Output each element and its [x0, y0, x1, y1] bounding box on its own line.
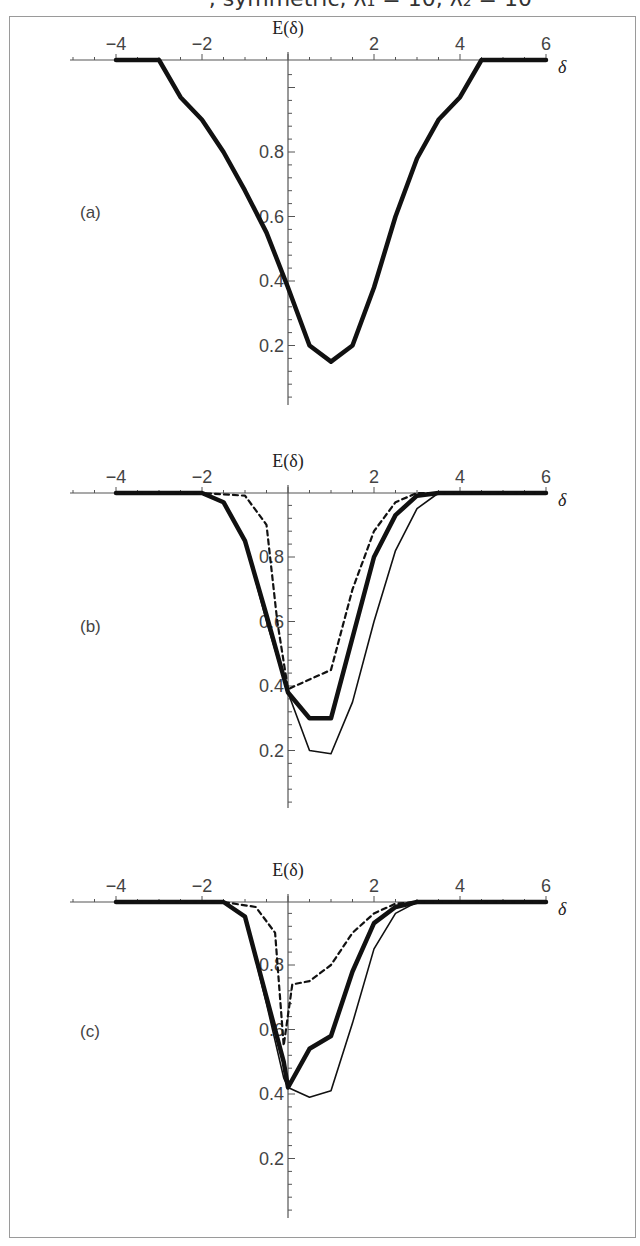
panel-label: (a) [80, 203, 101, 222]
x-axis-label: δ [558, 490, 567, 510]
x-tick-label: 4 [455, 876, 465, 896]
x-tick-label: −2 [192, 876, 213, 896]
y-tick-label: 0.8 [259, 955, 284, 975]
y-tick-label: 0.4 [259, 271, 284, 291]
x-tick-label: 6 [541, 876, 551, 896]
series-dashed [116, 493, 546, 689]
x-tick-label: −4 [106, 34, 127, 54]
x-tick-label: 2 [369, 34, 379, 54]
x-tick-label: 6 [541, 467, 551, 487]
y-tick-label: 0.2 [259, 1149, 284, 1169]
y-axis-label: E(δ) [272, 860, 303, 881]
y-tick-label: 0.8 [259, 142, 284, 162]
y-tick-label: 0.2 [259, 336, 284, 356]
series-solid [116, 60, 546, 362]
x-axis-label: δ [558, 899, 567, 919]
y-tick-label: 0.2 [259, 741, 284, 761]
panel-label: (b) [80, 617, 101, 636]
panel-a: −4−2246δE(δ)0.80.60.40.2(a) [70, 18, 567, 405]
panel-c: −4−2246δE(δ)0.80.60.40.2(c) [70, 860, 567, 1218]
panel-b: −4−2246δE(δ)0.80.60.40.2(b) [70, 451, 567, 808]
x-axis-label: δ [558, 57, 567, 77]
y-tick-label: 0.8 [259, 547, 284, 567]
x-tick-label: −2 [192, 467, 213, 487]
x-tick-label: 2 [369, 467, 379, 487]
y-axis-label: E(δ) [272, 451, 303, 472]
x-tick-label: −2 [192, 34, 213, 54]
x-tick-label: −4 [106, 467, 127, 487]
x-tick-label: 2 [369, 876, 379, 896]
x-tick-label: 4 [455, 34, 465, 54]
x-tick-label: 6 [541, 34, 551, 54]
y-axis-label: E(δ) [272, 18, 303, 39]
y-tick-label: 0.4 [259, 1084, 284, 1104]
panel-label: (c) [80, 1022, 100, 1041]
series-dashed [116, 902, 546, 1046]
series-thick [116, 902, 546, 1088]
y-tick-label: 0.4 [259, 676, 284, 696]
series-thin [116, 902, 546, 1097]
x-tick-label: 4 [455, 467, 465, 487]
series-thick [116, 493, 546, 718]
figure-plots: −4−2246δE(δ)0.80.60.40.2(a)−4−2246δE(δ)0… [0, 0, 640, 1246]
x-tick-label: −4 [106, 876, 127, 896]
